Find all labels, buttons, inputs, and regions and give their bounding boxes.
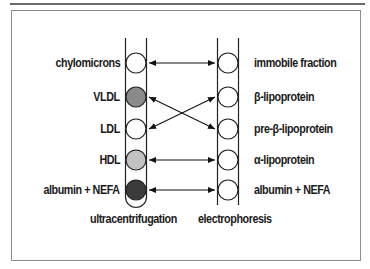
label-hdl: HDL	[99, 153, 120, 167]
circle-vldl	[126, 87, 146, 107]
label-pre-beta-lipoprotein: pre-β-lipoprotein	[254, 122, 333, 136]
label-beta-lipoprotein: β-lipoprotein	[254, 90, 314, 104]
label-alpha-lipoprotein: α-lipoprotein	[254, 153, 314, 167]
circle-alpha	[218, 150, 238, 170]
label-vldl: VLDL	[94, 90, 120, 104]
title-electrophoresis: electrophoresis	[198, 212, 272, 226]
label-ldl: LDL	[100, 122, 120, 136]
circle-hdl	[126, 150, 146, 170]
label-albumin-nefa-right: albumin + NEFA	[254, 183, 330, 197]
circle-ldl	[126, 119, 146, 139]
circle-beta	[218, 87, 238, 107]
circle-chylomicrons	[126, 53, 146, 73]
electrophoresis-strip	[218, 38, 239, 205]
ultracentrifugation-tube	[126, 38, 147, 208]
connection-arrows	[149, 63, 215, 190]
circle-immobile	[218, 53, 238, 73]
label-albumin-nefa-left: albumin + NEFA	[44, 183, 120, 197]
label-chylomicrons: chylomicrons	[55, 56, 120, 70]
circle-albumin-nefa-right	[218, 180, 238, 200]
circle-pre-beta	[218, 119, 238, 139]
circle-albumin-nefa-left	[126, 180, 146, 200]
label-immobile-fraction: immobile fraction	[254, 56, 336, 70]
title-ultracentrifugation: ultracentrifugation	[90, 212, 177, 226]
